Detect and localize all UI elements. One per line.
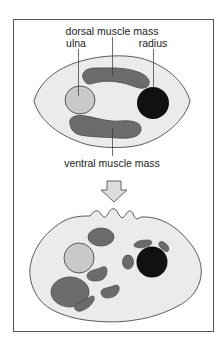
ulna-bone [64,243,94,273]
label-ulna: ulna [66,37,86,49]
radius-bone [137,87,169,119]
label-dorsal-muscle-mass: dorsal muscle mass [66,25,159,37]
muscle-group [123,255,134,269]
ulna-bone [65,86,95,114]
forearm-cross-section-diagram: dorsal muscle mass ulna radius ventral m… [0,0,224,347]
label-radius: radius [139,37,168,49]
radius-bone [137,247,168,278]
label-ventral-muscle-mass: ventral muscle mass [64,157,160,169]
muscle-group [88,228,114,246]
